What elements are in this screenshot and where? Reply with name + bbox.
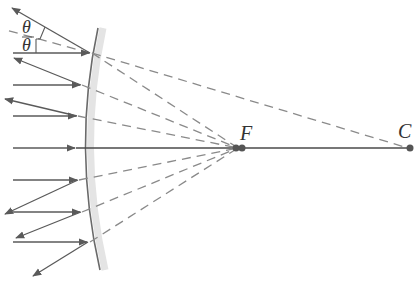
label-theta-incidence: θ	[22, 35, 31, 55]
normal-line	[6, 30, 408, 148]
convex-mirror-diagram: F C θ θ	[0, 0, 417, 290]
label-C: C	[398, 120, 412, 142]
center-of-curvature-marker	[407, 145, 414, 152]
focal-point-marker-2	[239, 145, 246, 152]
label-theta-reflection: θ	[22, 17, 31, 37]
reflected-rays	[5, 8, 90, 276]
focal-point-marker	[233, 145, 240, 152]
label-F: F	[239, 122, 253, 144]
